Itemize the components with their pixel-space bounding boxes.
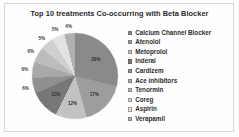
pie-slice-label: 4%	[65, 23, 72, 28]
pie-chart	[32, 33, 118, 119]
legend-item[interactable]: Atenolol	[128, 38, 236, 48]
legend-swatch-icon	[128, 50, 132, 54]
legend-item-label: Tenormin	[135, 87, 163, 93]
legend-item-label: Coreg	[135, 97, 153, 103]
legend-swatch-icon	[128, 69, 132, 73]
legend-item-label: Ace inhibitors	[135, 78, 177, 84]
legend-item[interactable]: Calcium Channel Blocker	[128, 28, 236, 38]
legend-item[interactable]: Verapamil	[128, 114, 236, 124]
pie-slice-label: 6%	[22, 85, 29, 90]
pie-slice-label: 17%	[90, 92, 99, 97]
legend-item[interactable]: Inderal	[128, 57, 236, 67]
chart-figure: Top 10 treatments Co-occurring with Beta…	[0, 0, 239, 137]
pie-slice-label: 5%	[52, 27, 59, 32]
legend-swatch-icon	[128, 98, 132, 102]
pie-slice-label: 12%	[68, 100, 77, 105]
pie-slice-label: 6%	[27, 49, 34, 54]
pie-slice-label: 29%	[91, 57, 100, 62]
legend-swatch-icon	[128, 31, 132, 35]
legend-swatch-icon	[128, 79, 132, 83]
legend-item-label: Inderal	[135, 58, 156, 64]
legend-swatch-icon	[128, 88, 132, 92]
legend-swatch-icon	[128, 107, 132, 111]
legend-item[interactable]: Metoprolol	[128, 47, 236, 57]
chart-legend: Calcium Channel BlockerAtenololMetoprolo…	[128, 28, 236, 124]
legend-item-label: Atenolol	[135, 39, 160, 45]
legend-item[interactable]: Coreg	[128, 95, 236, 105]
chart-title: Top 10 treatments Co-occurring with Beta…	[0, 9, 239, 18]
legend-item[interactable]: Tenormin	[128, 86, 236, 96]
legend-item[interactable]: Cardizem	[128, 66, 236, 76]
legend-item-label: Cardizem	[135, 68, 163, 74]
legend-item-label: Calcium Channel Blocker	[135, 30, 211, 36]
legend-item-label: Metoprolol	[135, 49, 167, 55]
legend-swatch-icon	[128, 40, 132, 44]
legend-item[interactable]: Ace inhibitors	[128, 76, 236, 86]
legend-item-label: Verapamil	[135, 116, 165, 122]
pie-chart-area: 29%17%12%11%6%6%6%5%5%4%	[22, 27, 127, 132]
legend-swatch-icon	[128, 117, 132, 121]
pie-slice-label: 11%	[51, 92, 60, 97]
legend-swatch-icon	[128, 59, 132, 63]
pie-slice-label: 6%	[21, 66, 28, 71]
pie-slice-label: 5%	[38, 35, 45, 40]
legend-item[interactable]: Aspirin	[128, 105, 236, 115]
legend-item-label: Aspirin	[135, 106, 157, 112]
